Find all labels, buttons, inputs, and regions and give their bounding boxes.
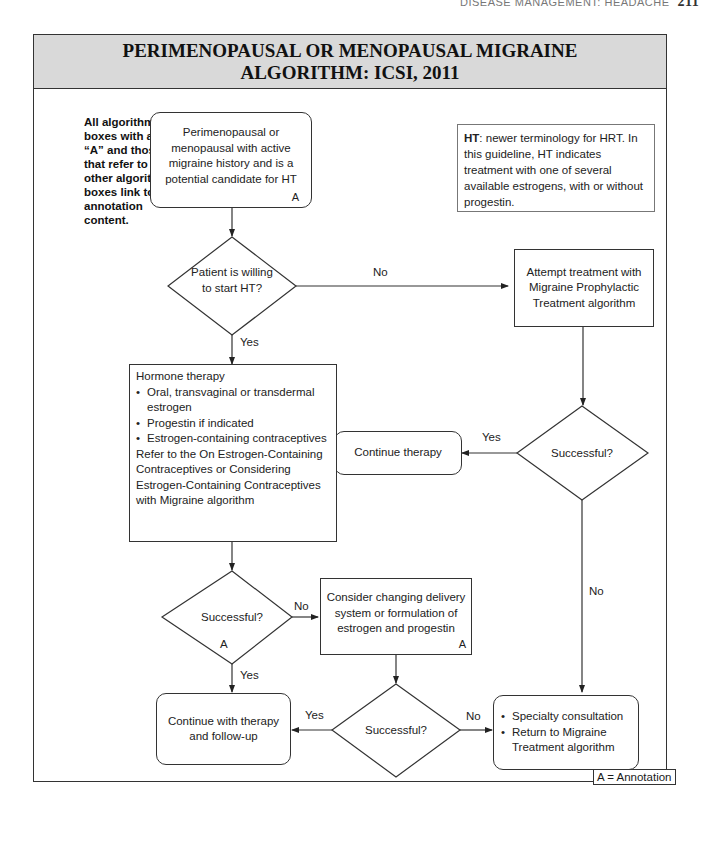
decision-success-right-text[interactable]: Successful? [540, 446, 624, 462]
edge-label-willing-no: No [373, 266, 388, 278]
specialty-item: Specialty consultation [501, 709, 632, 725]
ht-definition-note: HT: newer terminology for HRT. In this g… [457, 124, 655, 212]
specialty-list: Specialty consultation Return to Migrain… [501, 709, 632, 756]
decision-success-left-text[interactable]: Successful? [186, 610, 278, 626]
node-start[interactable]: Perimenopausal or menopausal with active… [150, 112, 312, 208]
node-prophylactic[interactable]: Attempt treatment with Migraine Prophyla… [514, 249, 654, 327]
node-continue-therapy[interactable]: Continue therapy [334, 431, 462, 475]
hormone-options-list: Oral, transvaginal or transdermal estrog… [136, 385, 330, 447]
node-consider-text: Consider changing delivery system or for… [321, 590, 471, 637]
hormone-heading: Hormone therapy [136, 369, 330, 385]
ht-term: HT [464, 132, 479, 144]
node-prophylactic-text: Attempt treatment with Migraine Prophyla… [515, 265, 653, 312]
edge-label-left-yes: Yes [240, 669, 259, 681]
hormone-option: Progestin if indicated [136, 416, 330, 432]
annotation-marker[interactable]: A [220, 638, 228, 650]
hormone-option: Estrogen-containing contraceptives [136, 431, 330, 447]
node-specialty-consultation[interactable]: Specialty consultation Return to Migrain… [493, 695, 639, 770]
hormone-option: Oral, transvaginal or transdermal estrog… [136, 385, 330, 416]
annotation-marker[interactable]: A [459, 637, 466, 653]
edge-label-willing-yes: Yes [240, 336, 259, 348]
edge-label-mid-no: No [466, 710, 481, 722]
edge-label-right-no: No [589, 585, 604, 597]
specialty-item: Return to Migraine Treatment algorithm [501, 725, 632, 756]
node-continue-followup[interactable]: Continue with therapy and follow-up [156, 693, 291, 765]
decision-success-mid-text[interactable]: Successful? [352, 723, 440, 739]
annotation-legend: A = Annotation [593, 769, 676, 785]
annotation-marker[interactable]: A [292, 190, 299, 206]
edge-label-mid-yes: Yes [305, 709, 324, 721]
ht-definition-text: : newer terminology for HRT. In this gui… [464, 132, 643, 208]
node-consider-changing[interactable]: Consider changing delivery system or for… [320, 578, 472, 655]
hormone-referral-link[interactable]: Refer to the On Estrogen-Containing Cont… [136, 447, 330, 509]
node-continue-therapy-text: Continue therapy [354, 445, 442, 461]
node-start-text: Perimenopausal or menopausal with active… [157, 125, 305, 187]
node-continue-followup-text: Continue with therapy and follow-up [157, 714, 290, 745]
edge-label-right-yes: Yes [482, 431, 501, 443]
decision-willing-text[interactable]: Patient is willing to start HT? [188, 265, 276, 296]
edge-label-left-no: No [294, 600, 309, 612]
node-hormone-therapy[interactable]: Hormone therapy Oral, transvaginal or tr… [129, 364, 337, 542]
